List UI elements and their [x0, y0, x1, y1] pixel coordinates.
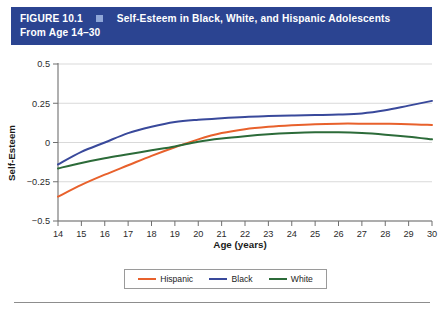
- x-axis-tick-label: 20: [193, 229, 203, 239]
- figure-title-secondary: From Age 14–30: [20, 26, 424, 40]
- y-axis-title: Self-Esteem: [6, 125, 17, 181]
- x-axis-tick-label: 24: [287, 229, 297, 239]
- y-axis-tick-label: −0.5: [32, 216, 50, 226]
- x-axis-tick-label: 23: [263, 229, 273, 239]
- y-axis-tick-label: 0: [45, 138, 50, 148]
- x-axis-tick-label: 26: [333, 229, 343, 239]
- x-axis-tick-label: 15: [76, 229, 86, 239]
- figure-header: FIGURE 10.1 Self-Esteem in Black, White,…: [11, 7, 432, 45]
- chart-plot-area: 0.50.250−0.25−0.5 1415161718192021222324…: [0, 48, 443, 273]
- x-axis-tick-label: 17: [123, 229, 133, 239]
- legend-item[interactable]: Hispanic: [138, 274, 193, 284]
- x-axis-group: 1415161718192021222324252627282930: [53, 221, 437, 239]
- legend-item-label: White: [291, 274, 313, 284]
- chart-legend: Hispanic Black White: [124, 269, 327, 289]
- x-axis-tick-label: 30: [427, 229, 437, 239]
- square-marker-icon: [96, 15, 103, 22]
- gridlines-group: [58, 64, 432, 221]
- line-chart-svg: 0.50.250−0.25−0.5 1415161718192021222324…: [0, 48, 443, 273]
- figure-header-line-1: FIGURE 10.1 Self-Esteem in Black, White,…: [20, 12, 424, 26]
- legend-item[interactable]: White: [269, 274, 313, 284]
- x-axis-title: Age (years): [213, 239, 266, 250]
- legend-swatch-icon: [138, 278, 156, 280]
- legend-swatch-icon: [269, 278, 287, 280]
- x-axis-tick-label: 18: [146, 229, 156, 239]
- x-axis-tick-label: 14: [53, 229, 63, 239]
- legend-swatch-icon: [209, 278, 227, 280]
- series-line-black: [58, 101, 432, 165]
- x-axis-tick-label: 21: [217, 229, 227, 239]
- y-axis-group: 0.50.250−0.25−0.5: [27, 59, 58, 226]
- x-axis-tick-label: 25: [310, 229, 320, 239]
- x-axis-tick-label: 22: [240, 229, 250, 239]
- x-axis-tick-label: 28: [380, 229, 390, 239]
- footer-divider: [14, 302, 430, 303]
- data-series-group: [58, 101, 432, 197]
- legend-item-label: Black: [231, 274, 252, 284]
- figure-container: FIGURE 10.1 Self-Esteem in Black, White,…: [0, 0, 443, 315]
- legend-item[interactable]: Black: [209, 274, 252, 284]
- y-axis-tick-label: −0.25: [27, 177, 50, 187]
- x-axis-tick-label: 19: [170, 229, 180, 239]
- y-axis-tick-label: 0.5: [37, 59, 50, 69]
- x-axis-tick-label: 27: [357, 229, 367, 239]
- figure-title-primary: Self-Esteem in Black, White, and Hispani…: [117, 13, 391, 24]
- y-axis-tick-label: 0.25: [32, 99, 50, 109]
- legend-item-label: Hispanic: [160, 274, 193, 284]
- x-axis-tick-label: 16: [100, 229, 110, 239]
- figure-number: FIGURE 10.1: [20, 13, 83, 24]
- x-axis-tick-label: 29: [404, 229, 414, 239]
